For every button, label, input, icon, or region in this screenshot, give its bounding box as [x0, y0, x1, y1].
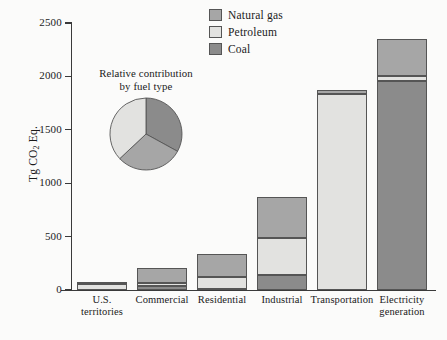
y-axis-tick [65, 129, 71, 130]
y-axis-tick-label: 500 [20, 231, 62, 242]
y-axis-tick [65, 22, 71, 23]
y-axis-tick-label: 2500 [20, 17, 62, 28]
y-axis-tick [65, 76, 71, 77]
chart-figure: Tg CO2 Eq. 05001000150020002500 U.S.terr… [0, 0, 447, 340]
bar-segment-coal[interactable] [377, 81, 427, 290]
bar-segment-natural_gas[interactable] [197, 254, 247, 277]
bar-segment-coal[interactable] [257, 275, 307, 290]
y-axis-tick-label-wrap: 1000 [14, 177, 62, 188]
y-axis-tick-label-wrap: 2000 [14, 70, 62, 81]
inset-pie-chart: Relative contributionby fuel type [86, 67, 206, 182]
bar-segment-petroleum[interactable] [197, 277, 247, 289]
y-axis-tick-label: 2000 [20, 70, 62, 81]
legend-item-coal[interactable]: Coal [209, 41, 283, 57]
legend-label-coal: Coal [228, 43, 251, 55]
bar-segment-petroleum[interactable] [377, 76, 427, 81]
legend-item-petroleum[interactable]: Petroleum [209, 24, 283, 40]
legend-swatch-petroleum [209, 26, 222, 38]
bar-segment-natural_gas[interactable] [377, 39, 427, 76]
y-axis-tick-label-wrap: 0 [14, 284, 62, 295]
inset-pie-title-line: by fuel type [86, 80, 206, 93]
y-axis-tick [65, 289, 71, 290]
bar-commercial[interactable] [137, 268, 187, 290]
bar-segment-natural_gas[interactable] [77, 282, 127, 284]
y-axis-tick-label-wrap: 500 [14, 231, 62, 242]
legend-swatch-coal [209, 43, 222, 55]
bar-industrial[interactable] [257, 197, 307, 290]
x-axis-label-electricity-generation: Electricitygeneration [365, 294, 439, 318]
legend-item-natural_gas[interactable]: Natural gas [209, 7, 283, 23]
x-axis-label-line: territories [65, 306, 139, 318]
bar-u-s-territories[interactable] [77, 283, 127, 290]
bar-segment-petroleum[interactable] [77, 284, 127, 290]
inset-pie-graphic [109, 97, 183, 171]
chart-legend: Natural gasPetroleumCoal [209, 7, 283, 58]
bar-electricity-generation[interactable] [377, 39, 427, 290]
y-axis-title-subscript: 2 [32, 145, 41, 149]
bar-segment-coal[interactable] [137, 286, 187, 290]
inset-pie-title: Relative contributionby fuel type [86, 67, 206, 92]
bar-residential[interactable] [197, 254, 247, 290]
bar-transportation[interactable] [317, 90, 367, 290]
inset-pie-title-line: Relative contribution [86, 67, 206, 80]
y-axis-tick-label-wrap: 2500 [14, 17, 62, 28]
x-axis-label-line: generation [365, 306, 439, 318]
legend-label-natural_gas: Natural gas [228, 9, 283, 21]
y-axis-tick-label: 1000 [20, 177, 62, 188]
y-axis-tick [65, 236, 71, 237]
legend-label-petroleum: Petroleum [228, 26, 277, 38]
y-axis-tick-label-wrap: 1500 [14, 124, 62, 135]
legend-swatch-natural_gas [209, 9, 222, 21]
bar-segment-petroleum[interactable] [317, 94, 367, 291]
bar-segment-natural_gas[interactable] [257, 197, 307, 238]
x-axis-label-line: Electricity [365, 294, 439, 306]
inset-pie-svg [109, 97, 183, 171]
y-axis-tick-label: 1500 [20, 124, 62, 135]
bar-segment-petroleum[interactable] [257, 238, 307, 275]
y-axis-title: Tg CO2 Eq. [27, 94, 39, 214]
bar-segment-natural_gas[interactable] [317, 90, 367, 93]
y-axis-tick-label: 0 [20, 284, 62, 295]
bar-segment-natural_gas[interactable] [137, 268, 187, 283]
bar-segment-petroleum[interactable] [137, 283, 187, 287]
y-axis-tick [65, 183, 71, 184]
